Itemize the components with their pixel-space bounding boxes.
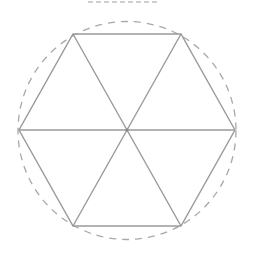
hexagon-diagram	[0, 0, 254, 254]
center-dot	[125, 128, 128, 131]
